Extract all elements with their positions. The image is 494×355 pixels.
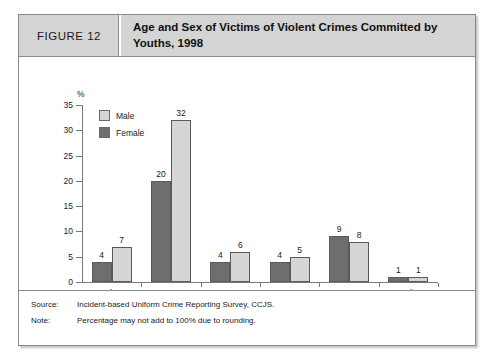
note-text: Percentage may not add to 100% due to ro… [77, 316, 463, 325]
bar-female-3 [270, 262, 290, 282]
y-tick-label-25: 25 [64, 151, 73, 161]
bar-female-0 [92, 262, 112, 282]
y-tick-label-15: 15 [64, 201, 73, 211]
bar-female-2 [210, 262, 230, 282]
y-tick-30: 30 [76, 130, 82, 131]
legend-swatch-male [99, 110, 110, 121]
y-tick-0: 0 [76, 282, 82, 283]
y-tick-label-35: 35 [64, 100, 73, 110]
figure-footer: Source: Incident-based Uniform Crime Rep… [19, 290, 475, 345]
chart-legend: Male Female [99, 110, 144, 144]
x-tick-3 [319, 283, 320, 287]
y-tick-label-5: 5 [68, 252, 73, 262]
y-tick-label-10: 10 [64, 226, 73, 236]
bar-value-male-5: 1 [403, 265, 433, 275]
y-tick-5: 5 [76, 257, 82, 258]
legend-item-male: Male [99, 110, 144, 121]
y-tick-35: 35 [76, 105, 82, 106]
x-tick-4 [379, 283, 380, 287]
legend-swatch-female [99, 127, 110, 138]
bar-value-male-4: 8 [344, 230, 374, 240]
y-tick-label-20: 20 [64, 176, 73, 186]
y-tick-label-30: 30 [64, 125, 73, 135]
chart-plot-area: % 05101520253035 Male Female 47203246459… [19, 57, 475, 290]
bar-value-male-2: 6 [225, 240, 255, 250]
bar-male-2 [230, 252, 250, 282]
note-label: Note: [31, 316, 77, 325]
y-axis-line [82, 105, 83, 282]
bar-female-5 [388, 277, 408, 282]
bar-value-male-0: 7 [107, 235, 137, 245]
x-tick-5 [438, 283, 439, 287]
legend-item-female: Female [99, 127, 144, 138]
bar-male-4 [349, 242, 369, 282]
x-tick-0 [141, 283, 142, 287]
y-tick-10: 10 [76, 231, 82, 232]
figure-header: FIGURE 12 Age and Sex of Victims of Viol… [19, 15, 475, 57]
y-tick-25: 25 [76, 156, 82, 157]
y-tick-15: 15 [76, 206, 82, 207]
page-title: Age and Sex of Victims of Violent Crimes… [133, 20, 465, 51]
bar-male-0 [112, 247, 132, 282]
figure-number: FIGURE 12 [19, 15, 121, 56]
x-tick-2 [260, 283, 261, 287]
bar-female-1 [151, 181, 171, 282]
y-tick-20: 20 [76, 181, 82, 182]
source-label: Source: [31, 300, 77, 309]
legend-label-male: Male [116, 111, 134, 121]
source-row: Source: Incident-based Uniform Crime Rep… [31, 300, 463, 309]
source-text: Incident-based Uniform Crime Reporting S… [77, 300, 463, 309]
bar-value-male-1: 32 [166, 108, 196, 118]
bar-male-3 [290, 257, 310, 282]
y-tick-label-0: 0 [68, 277, 73, 287]
x-tick-1 [201, 283, 202, 287]
figure-box: FIGURE 12 Age and Sex of Victims of Viol… [18, 14, 476, 346]
figure-title-wrap: Age and Sex of Victims of Violent Crimes… [121, 15, 475, 56]
bar-value-male-3: 5 [285, 245, 315, 255]
bar-female-4 [329, 236, 349, 282]
bar-male-1 [171, 120, 191, 282]
y-axis-unit-label: % [77, 89, 85, 99]
note-row: Note: Percentage may not add to 100% due… [31, 316, 463, 325]
bar-male-5 [408, 277, 428, 282]
legend-label-female: Female [116, 128, 144, 138]
